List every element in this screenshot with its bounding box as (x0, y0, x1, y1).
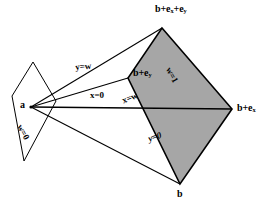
vertex-label-top-sub-y: y (184, 7, 187, 14)
vertex-label-top-main: b+e (155, 3, 170, 14)
edge-label-y-equals-w: y=w (75, 62, 92, 72)
vertex-label-midleft-main: b+e (133, 67, 148, 78)
apex-point-marker (29, 105, 32, 108)
vertex-label-right-sub-x: x (252, 106, 255, 113)
vertex-label-b-plus-ey: b+ey (133, 68, 152, 79)
vertex-label-b-plus-ex: b+ex (237, 103, 256, 114)
near-quad-unshaded (12, 62, 56, 161)
figure-canvas: a b+ex+ey b+ey b+ex b w=0 w=1 y=w x=0 x=… (0, 0, 274, 209)
vertex-label-right-main: b+e (237, 102, 252, 113)
vertex-label-a: a (20, 100, 25, 110)
vertex-label-midleft-sub-y: y (148, 71, 151, 78)
far-quad-shaded (128, 28, 232, 184)
vertex-label-b: b (177, 189, 182, 199)
edge-label-x-equals-0: x=0 (90, 91, 104, 100)
vertex-label-b-plus-ex-plus-ey: b+ex+ey (155, 4, 187, 15)
vertex-label-top-plus: +e (174, 3, 184, 14)
diagram-svg (0, 0, 274, 209)
